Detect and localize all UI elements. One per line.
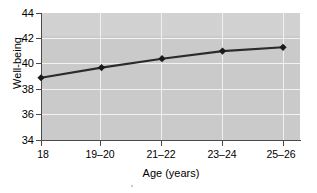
gridline-vertical-21-22 bbox=[161, 13, 162, 140]
x-axis-line bbox=[41, 140, 301, 141]
x-tick-mark-18 bbox=[41, 141, 42, 146]
x-tick-label-25-26: 25–26 bbox=[266, 149, 295, 160]
gridline-vertical-23-24 bbox=[222, 13, 223, 140]
y-tick-mark-36 bbox=[36, 114, 41, 115]
y-tick-mark-44 bbox=[36, 13, 41, 14]
gridline-vertical-25-26 bbox=[283, 13, 284, 140]
x-tick-label-21-22: 21–22 bbox=[146, 149, 175, 160]
x-axis-title: Age (years) bbox=[41, 167, 301, 179]
y-axis-line bbox=[41, 13, 42, 141]
chart-container: 44 42 40 38 36 34 18 19–20 21–22 23–24 2… bbox=[0, 0, 317, 193]
x-tick-mark-21-22 bbox=[161, 141, 162, 146]
y-tick-mark-40 bbox=[36, 63, 41, 64]
gridline-vertical-19-20 bbox=[100, 13, 101, 140]
scan-artifact-speck bbox=[131, 185, 133, 187]
gridline-horizontal-36 bbox=[41, 114, 300, 115]
x-tick-label-18: 18 bbox=[37, 149, 49, 160]
gridline-horizontal-40 bbox=[41, 63, 300, 64]
x-tick-mark-19-20 bbox=[100, 141, 101, 146]
x-tick-label-19-20: 19–20 bbox=[85, 149, 114, 160]
plot-area bbox=[41, 13, 300, 140]
y-tick-mark-38 bbox=[36, 89, 41, 90]
x-tick-mark-23-24 bbox=[222, 141, 223, 146]
y-axis-title: Well-being bbox=[11, 8, 23, 118]
plot-background-texture bbox=[41, 13, 300, 140]
x-tick-label-23-24: 23–24 bbox=[207, 149, 236, 160]
y-tick-mark-42 bbox=[36, 38, 41, 39]
y-tick-label-34: 34 bbox=[8, 135, 34, 146]
x-tick-mark-25-26 bbox=[283, 141, 284, 146]
gridline-horizontal-38 bbox=[41, 89, 300, 90]
gridline-horizontal-42 bbox=[41, 38, 300, 39]
